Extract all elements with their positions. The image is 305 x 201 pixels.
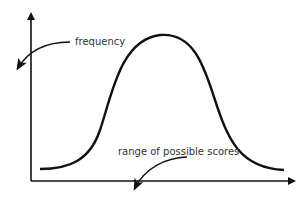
diagram-canvas [0,0,305,201]
range-of-scores-label: range of possible scores [118,146,239,157]
frequency-pointer-arrow [18,42,70,68]
frequency-label: frequency [75,36,125,47]
range-pointer-arrow [135,157,187,188]
